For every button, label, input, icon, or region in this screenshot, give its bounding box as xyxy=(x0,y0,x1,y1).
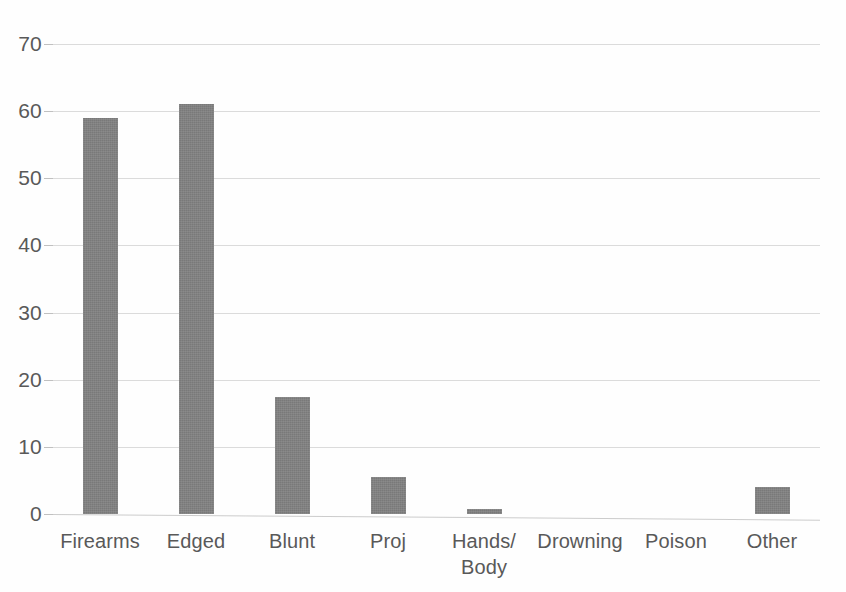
bar xyxy=(755,487,790,514)
x-axis-category-label: Other xyxy=(702,528,842,554)
bars-group xyxy=(0,0,846,592)
bar xyxy=(179,104,214,514)
bar xyxy=(467,509,502,514)
bar xyxy=(275,397,310,515)
bar xyxy=(83,118,118,514)
bar-chart: 010203040506070 FirearmsEdgedBluntProjHa… xyxy=(0,0,846,592)
bar xyxy=(371,477,406,514)
